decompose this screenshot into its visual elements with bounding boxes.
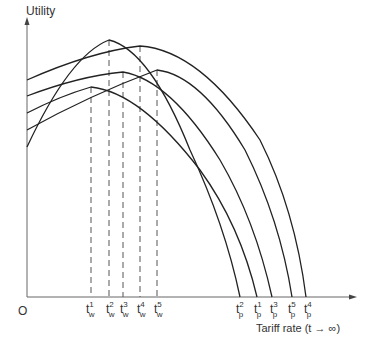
tick-tp2: t2p bbox=[236, 302, 248, 318]
tick-tw3: t3w bbox=[120, 302, 134, 318]
utility-curves bbox=[27, 40, 306, 297]
tick-tw2: t2w bbox=[106, 302, 120, 318]
tick-tw4: t4w bbox=[137, 302, 151, 318]
x-axis-label: Tariff rate (t → ∞) bbox=[256, 322, 340, 334]
tick-tp4: t4p bbox=[304, 302, 316, 318]
y-axis-label: Utility bbox=[26, 4, 55, 18]
optimum-tariff-guides bbox=[91, 40, 157, 297]
y-axis-arrow-icon bbox=[25, 17, 30, 25]
curve-4 bbox=[27, 46, 306, 297]
curve-5 bbox=[27, 70, 292, 297]
tick-tp3: t3p bbox=[270, 302, 282, 318]
origin-label: O bbox=[18, 304, 27, 318]
tick-tp5: t5p bbox=[288, 302, 300, 318]
tick-tw1: t1w bbox=[86, 302, 100, 318]
x-axis-arrow-icon bbox=[349, 295, 357, 300]
tick-tp1: t1p bbox=[254, 302, 266, 318]
tick-tw5: t5w bbox=[154, 302, 168, 318]
utility-tariff-diagram bbox=[0, 0, 365, 346]
curve-1 bbox=[27, 87, 257, 297]
